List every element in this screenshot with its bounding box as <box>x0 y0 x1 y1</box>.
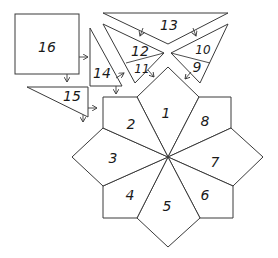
quilt-assembly-diagram: 16 14 15 13 12 11 10 9 <box>0 0 278 258</box>
star-label-5: 5 <box>163 198 172 214</box>
arrow-icon <box>116 73 124 78</box>
star-label-2: 2 <box>127 116 136 132</box>
piece-14-label: 14 <box>93 65 111 81</box>
piece-13-label: 13 <box>160 17 178 33</box>
center-star: 1 2 3 4 5 6 7 8 <box>72 67 263 247</box>
piece-11-label: 11 <box>134 62 149 76</box>
star-label-3: 3 <box>109 150 118 166</box>
star-label-4: 4 <box>126 187 135 203</box>
piece-15-triangle: 15 <box>27 87 88 117</box>
piece-16-label: 16 <box>38 39 56 55</box>
star-label-8: 8 <box>201 113 210 129</box>
star-label-1: 1 <box>162 105 171 121</box>
piece-9-label: 9 <box>193 59 202 75</box>
piece-12-label: 12 <box>131 43 149 59</box>
piece-16-square: 16 <box>15 14 79 74</box>
star-label-6: 6 <box>201 187 210 203</box>
piece-10-label: 10 <box>195 43 211 57</box>
piece-15-label: 15 <box>63 88 81 104</box>
arrow-icon <box>185 72 191 79</box>
star-label-7: 7 <box>211 154 220 170</box>
